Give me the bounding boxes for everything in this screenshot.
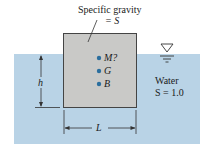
block-label-line1: Specific gravity (78, 4, 142, 15)
center-of-gravity-point (97, 69, 101, 73)
metacenter-point (97, 56, 101, 60)
water-label-line1: Water (155, 75, 179, 86)
block-label-line2: = S (105, 15, 119, 26)
depth-label: h (37, 77, 44, 88)
metacenter-label: M? (104, 52, 117, 63)
width-label: L (96, 122, 102, 133)
center-of-buoyancy-point (97, 82, 101, 86)
center-of-buoyancy-label: B (104, 78, 110, 89)
floating-block-diagram: Specific gravity = S M? G B Water S = 1.… (0, 0, 208, 149)
water-label-line2: S = 1.0 (155, 87, 184, 98)
center-of-gravity-label: G (104, 65, 111, 76)
